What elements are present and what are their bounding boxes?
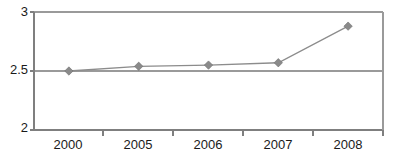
y-tick-label-2-5: 2.5 bbox=[10, 62, 28, 77]
x-tick-label-2007: 2007 bbox=[264, 137, 293, 152]
x-tick-label-2000: 2000 bbox=[54, 137, 83, 152]
line-chart: 3 2.5 2 2000 2005 2006 2007 2008 bbox=[0, 0, 399, 160]
x-tick-label-2008: 2008 bbox=[334, 137, 363, 152]
y-tick-label-2: 2 bbox=[21, 120, 28, 135]
y-tick-label-3: 3 bbox=[21, 4, 28, 19]
x-axis-tick-labels: 2000 2005 2006 2007 2008 bbox=[54, 137, 363, 152]
x-tick-label-2006: 2006 bbox=[194, 137, 223, 152]
y-axis-tick-labels: 3 2.5 2 bbox=[10, 4, 28, 135]
x-tick-marks bbox=[103, 130, 383, 136]
x-tick-label-2005: 2005 bbox=[124, 137, 153, 152]
chart-canvas: 3 2.5 2 2000 2005 2006 2007 2008 bbox=[0, 0, 399, 160]
